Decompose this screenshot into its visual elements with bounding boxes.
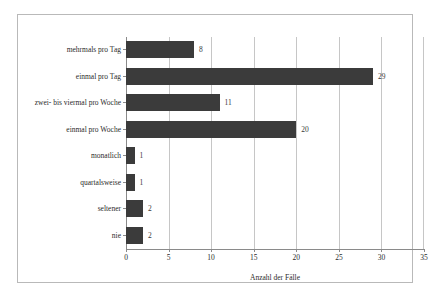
bar-value-label: 1	[140, 147, 144, 164]
category-label: nie	[112, 227, 121, 244]
bar-row: zwei- bis viermal pro Woche 11	[126, 90, 424, 117]
bar-value-label: 2	[148, 227, 152, 244]
x-tick-mark-20	[296, 249, 297, 252]
x-tick-label-25: 25	[335, 253, 343, 262]
bar	[126, 174, 135, 191]
bar	[126, 147, 135, 164]
bar-row: quartalsweise 1	[126, 170, 424, 197]
x-axis-title: Anzahl der Fälle	[126, 273, 424, 282]
x-axis-line	[126, 249, 425, 250]
category-label: mehrmals pro Tag	[67, 41, 121, 58]
x-tick-mark-30	[381, 249, 382, 252]
x-tick-mark-35	[424, 249, 425, 252]
bar	[126, 121, 296, 138]
bar-row: monatlich 1	[126, 143, 424, 170]
x-tick-label-35: 35	[420, 253, 428, 262]
bar-value-label: 29	[378, 68, 386, 85]
category-label: monatlich	[91, 147, 121, 164]
category-label: einmal pro Woche	[66, 121, 121, 138]
category-label: zwei- bis viermal pro Woche	[35, 94, 121, 111]
bar-value-label: 8	[199, 41, 203, 58]
x-tick-label-10: 10	[207, 253, 215, 262]
bar-row: seltener 2	[126, 196, 424, 223]
x-tick-label-20: 20	[293, 253, 301, 262]
bar-value-label: 2	[148, 200, 152, 217]
x-tick-label-0: 0	[124, 253, 128, 262]
chart-figure: 0 5 10 15 20 25 30 35 Anzahl der Fälle m…	[0, 0, 431, 299]
x-tick-mark-0	[126, 249, 127, 252]
bar-row: nie 2	[126, 223, 424, 250]
plot-area: mehrmals pro Tag 8 einmal pro Tag 29 zwe…	[126, 37, 424, 249]
x-tick-mark-15	[254, 249, 255, 252]
x-tick-label-5: 5	[167, 253, 171, 262]
x-tick-label-30: 30	[378, 253, 386, 262]
chart-outer-frame: 0 5 10 15 20 25 30 35 Anzahl der Fälle m…	[17, 14, 413, 283]
bar	[126, 68, 373, 85]
bar	[126, 94, 220, 111]
category-label: quartalsweise	[80, 174, 121, 191]
bar-row: einmal pro Tag 29	[126, 64, 424, 91]
category-label: seltener	[98, 200, 121, 217]
bar-row: mehrmals pro Tag 8	[126, 37, 424, 64]
bar	[126, 41, 194, 58]
x-tick-mark-10	[211, 249, 212, 252]
x-tick-label-15: 15	[250, 253, 258, 262]
bar-row: einmal pro Woche 20	[126, 117, 424, 144]
x-tick-mark-25	[339, 249, 340, 252]
bar-value-label: 20	[301, 121, 309, 138]
x-tick-mark-5	[169, 249, 170, 252]
bar-value-label: 1	[140, 174, 144, 191]
bar	[126, 200, 143, 217]
bar	[126, 227, 143, 244]
bar-value-label: 11	[225, 94, 232, 111]
category-label: einmal pro Tag	[76, 68, 121, 85]
